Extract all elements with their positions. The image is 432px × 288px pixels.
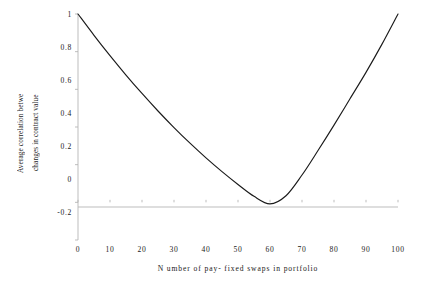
chart-figure: Average correlation betwe changes in con… [0,0,432,288]
x-axis-ticks [78,200,398,203]
plot-area [0,0,432,288]
data-series-line [78,14,398,204]
